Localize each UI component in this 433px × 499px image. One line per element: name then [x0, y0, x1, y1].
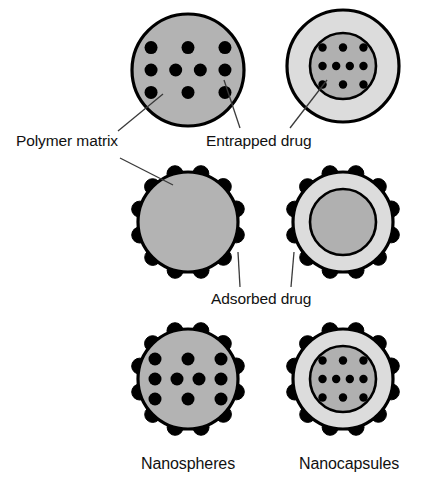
entrapped-drug-dot — [169, 64, 182, 77]
label-nanospheres: Nanospheres — [141, 455, 235, 473]
nanosphere-entrapped-adsorbed — [132, 323, 245, 436]
entrapped-drug-dot — [215, 393, 228, 406]
capsule-core — [310, 189, 376, 255]
entrapped-drug-dot — [318, 375, 326, 383]
entrapped-drug-dot — [346, 375, 354, 383]
entrapped-drug-dot — [193, 373, 206, 386]
entrapped-drug-dot — [149, 393, 162, 406]
entrapped-drug-dot — [149, 373, 162, 386]
entrapped-drug-dot — [318, 393, 326, 401]
entrapped-drug-dot — [339, 356, 347, 364]
entrapped-drug-dot — [215, 373, 228, 386]
entrapped-drug-dot — [359, 393, 367, 401]
polymer-matrix-body — [138, 172, 238, 272]
entrapped-drug-dot — [359, 62, 367, 70]
entrapped-drug-dot — [215, 353, 228, 366]
entrapped-drug-dot — [359, 43, 367, 51]
label-nanocapsules: Nanocapsules — [299, 455, 399, 473]
entrapped-drug-dot — [339, 80, 347, 88]
label-polymer-matrix: Polymer matrix — [16, 132, 118, 150]
entrapped-drug-dot — [332, 375, 340, 383]
entrapped-drug-dot — [171, 373, 184, 386]
nanocapsule-entrapped-adsorbed — [287, 323, 400, 436]
entrapped-drug-dot — [145, 64, 158, 77]
label-entrapped-drug: Entrapped drug — [206, 132, 311, 150]
nanocapsule-adsorbed — [287, 166, 400, 279]
entrapped-drug-dot — [346, 62, 354, 70]
entrapped-drug-dot — [182, 353, 195, 366]
entrapped-drug-dot — [318, 43, 326, 51]
entrapped-drug-dot — [218, 41, 231, 54]
nanosphere-adsorbed — [132, 166, 245, 279]
entrapped-drug-dot — [194, 64, 207, 77]
entrapped-drug-dot — [332, 62, 340, 70]
entrapped-drug-dot — [359, 375, 367, 383]
entrapped-drug-dot — [182, 393, 195, 406]
entrapped-drug-dot — [359, 356, 367, 364]
entrapped-drug-dot — [339, 43, 347, 51]
entrapped-drug-dot — [145, 41, 158, 54]
entrapped-drug-dot — [359, 80, 367, 88]
nanocapsule-entrapped — [287, 10, 399, 122]
entrapped-drug-dot — [318, 62, 326, 70]
entrapped-drug-dot — [339, 393, 347, 401]
entrapped-drug-dot — [182, 86, 195, 99]
nanoparticle-diagram — [0, 0, 433, 499]
label-adsorbed-drug: Adsorbed drug — [211, 290, 311, 308]
entrapped-drug-dot — [318, 356, 326, 364]
entrapped-drug-dot — [149, 353, 162, 366]
entrapped-drug-dot — [182, 41, 195, 54]
entrapped-drug-dot — [145, 86, 158, 99]
nanosphere-entrapped — [132, 14, 244, 126]
entrapped-drug-dot — [218, 64, 231, 77]
